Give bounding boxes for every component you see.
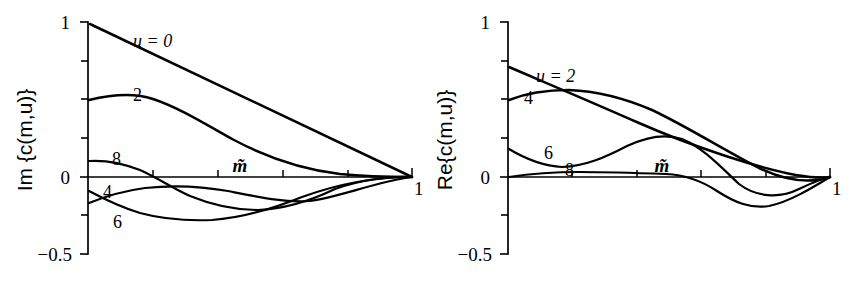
y-label-neg05: −0.5 (458, 244, 492, 265)
real-part-svg: 1 0 −0.5 u = 2 4 6 8 m̃ 1 Re{c(m,u)} (424, 0, 849, 281)
y-label-0: 0 (481, 167, 491, 188)
curve-label-u2: u = 2 (536, 66, 575, 86)
curve-label-u6: 6 (544, 143, 553, 163)
imaginary-part-plot: 1 0 −0.5 u = 0 2 8 4 6 m̃ 1 Im {c(m,u)} (0, 0, 425, 281)
curve-label-u8: 8 (112, 149, 121, 169)
x-axis-label-mtilde: m̃ (233, 155, 248, 176)
curve-label-u4: 4 (524, 88, 533, 108)
y-label-0: 0 (61, 167, 71, 188)
curve-label-u8: 8 (565, 160, 574, 180)
curve-label-u4: 4 (103, 182, 112, 202)
curve-label-u6: 6 (113, 212, 122, 232)
curve-u6 (509, 136, 830, 195)
y-axis-title: Re{c(m,u)} (433, 90, 456, 190)
curve-u8 (89, 161, 412, 210)
curve-u4 (89, 177, 412, 220)
x-axis-label-mtilde: m̃ (655, 155, 670, 176)
x-end-label-1: 1 (832, 178, 842, 199)
y-axis-title: Im {c(m,u)} (13, 89, 36, 192)
y-label-neg05: −0.5 (38, 244, 72, 265)
figure-container: 1 0 −0.5 u = 0 2 8 4 6 m̃ 1 Im {c(m,u)} (0, 0, 849, 281)
curve-label-u0: u = 0 (133, 31, 172, 51)
real-part-plot: 1 0 −0.5 u = 2 4 6 8 m̃ 1 Re{c(m,u)} (424, 0, 849, 281)
y-label-1: 1 (481, 12, 491, 33)
x-end-label-1: 1 (414, 178, 424, 199)
curve-u2 (89, 95, 412, 177)
curve-label-u2: 2 (133, 85, 142, 105)
y-label-1: 1 (61, 12, 71, 33)
imaginary-part-svg: 1 0 −0.5 u = 0 2 8 4 6 m̃ 1 Im {c(m,u)} (0, 0, 425, 281)
